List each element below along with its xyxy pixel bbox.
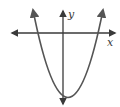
graph-canvas: y x xyxy=(0,0,120,107)
y-axis-label: y xyxy=(67,8,75,21)
parabola-curve xyxy=(33,10,103,98)
parabola-figure: y x xyxy=(0,0,120,107)
x-axis-label: x xyxy=(107,36,114,49)
